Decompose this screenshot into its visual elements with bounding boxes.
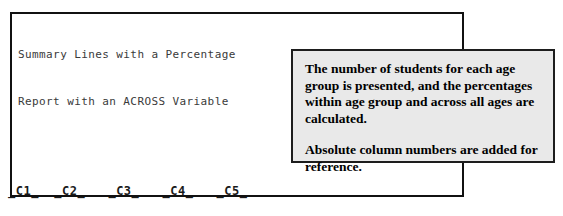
listing-title-line-2: Report with an ACROSS Variable [18,94,243,110]
annotation-paragraph-2: Absolute column numbers are added for re… [305,142,541,175]
column-number-markers: _C1_ _C2_ _C3_ _C4_ _C5_ [8,184,247,198]
listing-blank-line-1 [18,140,243,156]
screenshot-root: Summary Lines with a Percentage Report w… [0,0,563,216]
annotation-callout-text: The number of students for each age grou… [293,51,553,175]
annotation-callout: The number of students for each age grou… [291,49,555,163]
listing-title-line-1: Summary Lines with a Percentage [18,47,243,63]
annotation-paragraph-1: The number of students for each age grou… [305,61,541,127]
